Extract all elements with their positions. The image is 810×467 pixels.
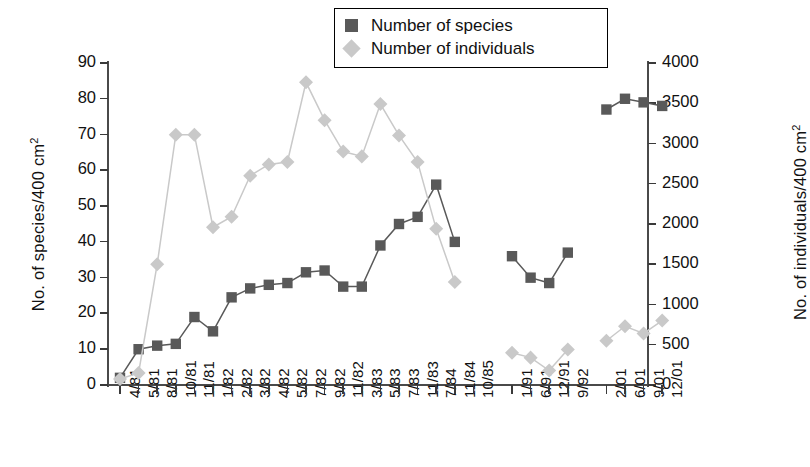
data-point-diamond (150, 257, 164, 271)
data-point-diamond (225, 210, 239, 224)
data-point-square (245, 283, 255, 293)
data-point-square (152, 340, 162, 350)
data-point-square (301, 267, 311, 277)
data-point-square (525, 272, 535, 282)
data-point-square (601, 104, 611, 114)
series-line (512, 350, 568, 371)
data-point-square (319, 265, 329, 275)
data-point-diamond (187, 128, 201, 142)
data-point-diamond (206, 220, 220, 234)
data-point-square (171, 339, 181, 349)
data-point-square (544, 278, 554, 288)
series-line (512, 253, 568, 283)
data-point-diamond (169, 128, 183, 142)
data-point-diamond (505, 346, 519, 360)
data-point-diamond (411, 155, 425, 169)
series-individuals (113, 75, 669, 386)
data-point-diamond (618, 319, 632, 333)
data-point-square (189, 312, 199, 322)
data-point-square (208, 326, 218, 336)
data-point-square (357, 281, 367, 291)
data-point-diamond (299, 75, 313, 89)
data-point-diamond (429, 222, 443, 236)
data-point-square (375, 240, 385, 250)
data-point-diamond (243, 169, 257, 183)
data-point-diamond (280, 155, 294, 169)
series-line (606, 99, 662, 110)
data-point-diamond (355, 149, 369, 163)
data-point-square (412, 212, 422, 222)
data-point-square (620, 94, 630, 104)
data-point-square (226, 292, 236, 302)
data-point-diamond (655, 314, 669, 328)
data-point-diamond (637, 326, 651, 340)
data-point-diamond (524, 351, 538, 365)
data-point-square (282, 278, 292, 288)
data-point-diamond (599, 334, 613, 348)
data-point-square (394, 219, 404, 229)
data-point-diamond (262, 157, 276, 171)
data-point-square (657, 101, 667, 111)
data-point-square (638, 97, 648, 107)
data-point-diamond (318, 113, 332, 127)
data-point-diamond (373, 97, 387, 111)
data-point-diamond (392, 128, 406, 142)
data-point-square (563, 247, 573, 257)
data-point-diamond (448, 275, 462, 289)
data-point-square (431, 179, 441, 189)
series-line (120, 82, 455, 379)
data-point-diamond (336, 145, 350, 159)
data-point-diamond (132, 366, 146, 380)
data-point-square (507, 251, 517, 261)
data-point-square (338, 281, 348, 291)
data-point-square (450, 237, 460, 247)
data-point-square (264, 280, 274, 290)
series-line (606, 321, 662, 341)
